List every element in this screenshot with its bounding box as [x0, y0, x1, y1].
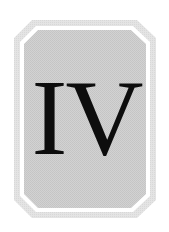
roman-numeral-text: IV: [0, 68, 169, 168]
numeral-plaque: IV: [0, 0, 169, 232]
